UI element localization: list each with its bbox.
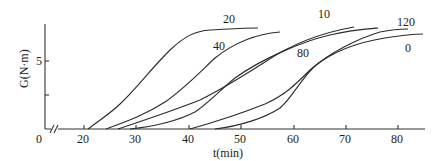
curve-label-40: 40 bbox=[213, 39, 225, 53]
curve-0 bbox=[215, 34, 423, 129]
x-tick-label-60: 60 bbox=[287, 132, 299, 146]
torque-time-chart: 0 20 30 40 50 60 70 80 5 t(min) G(N·m) 2… bbox=[0, 0, 443, 161]
x-tick-label-20: 20 bbox=[77, 132, 89, 146]
x-tick-label-30: 30 bbox=[129, 132, 141, 146]
x-axis-title: t(min) bbox=[213, 146, 243, 160]
curve-20 bbox=[88, 28, 258, 129]
curve-label-20: 20 bbox=[223, 12, 235, 26]
curve-label-120: 120 bbox=[397, 15, 415, 29]
curve-label-0: 0 bbox=[405, 41, 411, 55]
y-axis-title: G(N·m) bbox=[17, 49, 31, 88]
origin-label: 0 bbox=[36, 132, 42, 146]
curve-label-10: 10 bbox=[318, 7, 330, 21]
x-tick-label-40: 40 bbox=[182, 132, 194, 146]
axis-break-icon bbox=[50, 125, 58, 133]
curve-40 bbox=[106, 32, 280, 129]
curve-10 bbox=[118, 27, 354, 129]
x-tick-label-80: 80 bbox=[391, 132, 403, 146]
y-tick-label-5: 5 bbox=[36, 54, 42, 68]
x-tick-label-50: 50 bbox=[234, 132, 246, 146]
curve-80 bbox=[130, 28, 378, 129]
x-tick-label-70: 70 bbox=[339, 132, 351, 146]
curve-label-80: 80 bbox=[297, 46, 309, 60]
